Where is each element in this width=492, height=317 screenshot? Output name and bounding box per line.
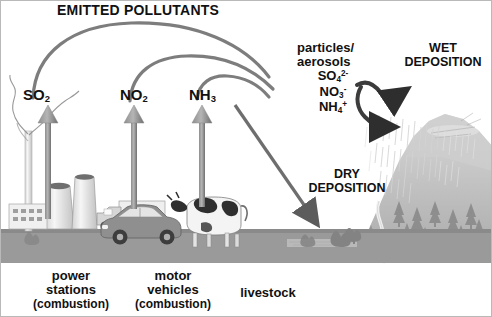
- ion-ammonium: NH4+: [297, 100, 369, 116]
- motor-line-2: vehicles: [147, 282, 198, 297]
- dry-deposition-arrow: [235, 105, 311, 215]
- so2-subscript: 2: [45, 93, 50, 104]
- motor-line-3: (combustion): [135, 297, 211, 311]
- source-label-power-stations: power stations (combustion): [15, 269, 127, 311]
- aerosol-block: particles/ aerosols SO42- NO3- NH4+: [297, 41, 369, 116]
- power-line-1: power: [52, 268, 90, 283]
- ion-nitrate: NO3-: [297, 85, 369, 101]
- power-line-2: stations: [46, 282, 96, 297]
- diagram-title: EMITTED POLLUTANTS: [1, 3, 275, 18]
- source-label-motor-vehicles: motor vehicles (combustion): [117, 269, 229, 311]
- pollutant-label-so2: SO2: [23, 87, 50, 104]
- nitrate-sup: -: [344, 85, 347, 94]
- pollutant-label-no2: NO2: [120, 87, 148, 104]
- emission-arrow-no2: [124, 105, 144, 209]
- pollutant-label-nh3: NH3: [189, 87, 216, 104]
- dry-deposition-line-2: DEPOSITION: [308, 181, 385, 195]
- acid-deposition-diagram: EMITTED POLLUTANTS SO2 NO2 NH3 particles…: [0, 0, 492, 317]
- aerosol-line-1: particles/: [297, 41, 369, 55]
- aerosol-line-2: aerosols: [297, 55, 369, 69]
- dry-deposition-label: DRY DEPOSITION: [297, 168, 397, 195]
- wet-deposition-line-1: WET: [429, 41, 457, 55]
- dry-deposition-line-1: DRY: [334, 167, 360, 181]
- transport-arc-so2: [33, 23, 269, 98]
- ammonium-sup: +: [342, 101, 347, 110]
- nh3-subscript: 3: [211, 93, 216, 104]
- emission-arrow-so2: [38, 105, 58, 219]
- motor-line-1: motor: [155, 268, 192, 283]
- wet-deposition-line-2: DEPOSITION: [404, 55, 481, 69]
- source-label-livestock: livestock: [223, 286, 313, 300]
- wet-deposition-label: WET DEPOSITION: [399, 42, 487, 69]
- sulfate-sup: 2-: [341, 69, 348, 78]
- ion-sulfate: SO42-: [297, 69, 369, 85]
- emission-arrow-nh3: [192, 105, 212, 207]
- power-line-3: (combustion): [33, 297, 109, 311]
- no2-subscript: 2: [143, 93, 148, 104]
